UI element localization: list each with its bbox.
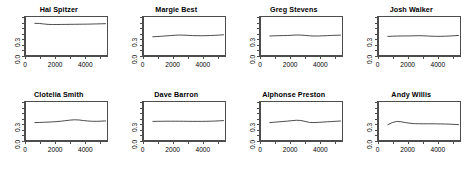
y-axis: 0.00.3 <box>17 101 25 141</box>
y-axis-label: 0.3 <box>249 38 256 47</box>
y-axis: 0.00.3 <box>252 16 260 56</box>
plot-area <box>143 101 226 141</box>
x-axis-tick <box>143 56 144 59</box>
x-axis-line <box>25 141 108 142</box>
plot-area <box>260 101 343 141</box>
plot-canvas <box>261 102 342 140</box>
x-axis-tick <box>305 141 306 144</box>
y-axis-label: 0.3 <box>14 38 21 47</box>
x-axis-tick <box>335 56 336 59</box>
x-axis-label: 2000 <box>283 61 298 68</box>
x-axis-label: 4000 <box>78 61 93 68</box>
x-axis-label: 4000 <box>431 61 446 68</box>
x-axis-tick <box>275 141 276 144</box>
plot-canvas <box>144 102 225 140</box>
y-axis-label: 0.0 <box>367 140 374 149</box>
plot-area <box>25 101 108 141</box>
data-line <box>35 120 106 123</box>
x-axis-label: 2000 <box>283 146 298 153</box>
plot-canvas <box>144 17 225 55</box>
x-axis-tick <box>25 141 26 144</box>
x-axis-tick <box>408 141 409 144</box>
x-axis-tick <box>85 141 86 144</box>
x-axis: 020004000 <box>260 56 343 72</box>
x-axis-tick <box>290 56 291 59</box>
x-axis-label: 0 <box>376 61 380 68</box>
x-axis: 020004000 <box>378 141 461 157</box>
plot-area <box>378 101 461 141</box>
x-axis-label: 0 <box>141 61 145 68</box>
x-axis-label: 4000 <box>196 146 211 153</box>
x-axis-line <box>25 56 108 57</box>
x-axis-tick <box>40 56 41 59</box>
panel-2: Margie Best0.00.3020004000 <box>118 0 236 85</box>
plot-canvas <box>379 102 460 140</box>
y-axis-label: 0.0 <box>132 140 139 149</box>
x-axis-label: 4000 <box>78 146 93 153</box>
y-axis: 0.00.3 <box>370 101 378 141</box>
x-axis-tick <box>218 56 219 59</box>
x-axis-label: 4000 <box>196 61 211 68</box>
x-axis: 020004000 <box>378 56 461 72</box>
x-axis-tick <box>393 141 394 144</box>
y-axis: 0.00.3 <box>370 16 378 56</box>
x-axis-label: 2000 <box>400 146 415 153</box>
y-axis-label: 0.3 <box>367 123 374 132</box>
x-axis-label: 0 <box>23 146 27 153</box>
x-axis-tick <box>188 56 189 59</box>
data-line <box>152 121 223 122</box>
data-line <box>270 35 341 36</box>
y-axis-label: 0.3 <box>367 38 374 47</box>
x-axis-tick <box>55 141 56 144</box>
y-axis-label: 0.3 <box>249 123 256 132</box>
plot-area <box>143 16 226 56</box>
panel-title: Josh Walker <box>353 5 470 14</box>
x-axis-label: 0 <box>258 146 262 153</box>
x-axis-tick <box>423 56 424 59</box>
x-axis-tick <box>453 141 454 144</box>
x-axis-tick <box>70 56 71 59</box>
figure-small-multiples: Hal Spitzer0.00.3020004000Margie Best0.0… <box>0 0 470 170</box>
x-axis-tick <box>335 141 336 144</box>
x-axis-label: 0 <box>376 146 380 153</box>
x-axis-tick <box>158 56 159 59</box>
panel-grid: Hal Spitzer0.00.3020004000Margie Best0.0… <box>0 0 470 170</box>
panel-title: Margie Best <box>118 5 236 14</box>
x-axis: 020004000 <box>25 141 108 157</box>
x-axis-tick <box>218 141 219 144</box>
x-axis-tick <box>378 141 379 144</box>
y-axis: 0.00.3 <box>252 101 260 141</box>
x-axis-label: 2000 <box>48 146 63 153</box>
plot-canvas <box>261 17 342 55</box>
panel-title: Dave Barron <box>118 90 236 99</box>
panel-title: Andy Willis <box>353 90 470 99</box>
y-axis: 0.00.3 <box>135 101 143 141</box>
x-axis-tick <box>188 141 189 144</box>
x-axis-tick <box>305 56 306 59</box>
panel-3: Greg Stevens0.00.3020004000 <box>235 0 353 85</box>
x-axis-label: 2000 <box>165 146 180 153</box>
y-axis-label: 0.3 <box>132 38 139 47</box>
x-axis-label: 2000 <box>48 61 63 68</box>
y-axis-label: 0.3 <box>132 123 139 132</box>
x-axis: 020004000 <box>143 56 226 72</box>
data-line <box>270 120 341 122</box>
x-axis-tick <box>40 141 41 144</box>
plot-canvas <box>26 17 107 55</box>
x-axis: 020004000 <box>25 56 108 72</box>
x-axis-tick <box>100 141 101 144</box>
y-axis-label: 0.3 <box>14 123 21 132</box>
y-axis-label: 0.0 <box>367 55 374 64</box>
x-axis-tick <box>70 141 71 144</box>
x-axis-tick <box>55 56 56 59</box>
plot-area <box>260 16 343 56</box>
data-line <box>387 121 458 124</box>
x-axis-tick <box>320 141 321 144</box>
panel-7: Alphonse Preston0.00.3020004000 <box>235 85 353 170</box>
panel-6: Dave Barron0.00.3020004000 <box>118 85 236 170</box>
y-axis-label: 0.0 <box>14 55 21 64</box>
y-axis: 0.00.3 <box>17 16 25 56</box>
panel-title: Hal Spitzer <box>0 5 118 14</box>
plot-area <box>25 16 108 56</box>
x-axis-tick <box>260 56 261 59</box>
